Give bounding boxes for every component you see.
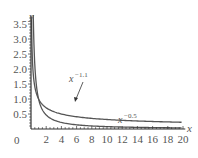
y-axis-label: y (28, 10, 34, 22)
x-tick-label: 6 (74, 133, 80, 145)
x-tick-label: 12 (117, 133, 128, 145)
annotation-arrow-line (76, 82, 83, 99)
x-tick-label: 2 (43, 133, 49, 145)
arrow-head-icon (74, 97, 78, 102)
curves (32, 15, 182, 128)
x-tick-label: 14 (132, 133, 144, 145)
curve-x-pow-1.1 (33, 15, 181, 128)
annotation-x-neg-1.1: x −1.1 (68, 71, 88, 102)
y-tick-label: 2.5 (13, 48, 27, 60)
y-tick-label: 1.5 (13, 78, 27, 90)
annotation-x-neg-0.5: x −0.5 (117, 112, 137, 125)
x-tick-label: 18 (162, 133, 174, 145)
y-tick-label: 3.5 (13, 18, 27, 30)
annotation-base: x (117, 114, 123, 125)
curve-x-pow-0.5 (32, 17, 182, 122)
chart: 24681012141618200.51.01.52.02.53.03.5 y … (0, 0, 198, 158)
x-tick-label: 20 (178, 133, 190, 145)
y-tick-label: 1.0 (13, 93, 27, 105)
annotation-exponent: −0.5 (124, 112, 137, 120)
annotation-base: x (68, 73, 74, 84)
x-axis-label: x (186, 122, 192, 134)
x-tick-label: 16 (147, 133, 159, 145)
x-tick-label: 8 (89, 133, 95, 145)
y-tick-label: 0.5 (13, 108, 27, 120)
x-tick-label: 10 (102, 133, 114, 145)
origin-label: 0 (14, 134, 20, 146)
y-tick-label: 3.0 (13, 33, 27, 45)
annotation-exponent: −1.1 (75, 71, 88, 79)
y-tick-label: 2.0 (13, 63, 27, 75)
tick-marks (28, 18, 183, 129)
x-tick-label: 4 (59, 133, 65, 145)
